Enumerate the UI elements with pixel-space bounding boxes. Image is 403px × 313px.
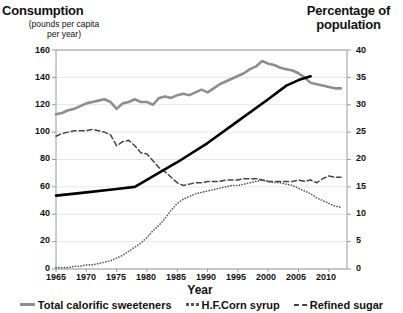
right-axis-title-line1: Percentage of <box>307 3 390 18</box>
chart-container: Consumption (pounds per capita per year)… <box>0 0 403 313</box>
y-tick-right-0: 40 <box>356 45 386 55</box>
legend-label-2: Refined sugar <box>310 299 383 311</box>
y-tick-right-8: 0 <box>356 263 386 273</box>
gridlines <box>56 50 347 269</box>
y-tick-left-6: 40 <box>20 208 50 218</box>
left-axis-title: Consumption <box>2 4 84 18</box>
y-tick-right-3: 25 <box>356 126 386 136</box>
y-tick-left-0: 160 <box>20 45 50 55</box>
left-axis-subtitle-line1: (pounds per capita <box>29 19 99 29</box>
legend-item-hf-corn-syrup[interactable]: H.F.Corn syrup <box>186 299 280 311</box>
legend: Total calorific sweeteners H.F.Corn syru… <box>0 296 403 313</box>
series-line-total-calorific-sweeteners <box>56 61 341 114</box>
y-tick-left-4: 80 <box>20 153 50 163</box>
legend-line-icon-dotted <box>186 303 199 306</box>
series-line-refined-sugar <box>56 129 341 185</box>
y-tick-left-7: 20 <box>20 235 50 245</box>
legend-item-total-calorific-sweeteners[interactable]: Total calorific sweeteners <box>20 299 172 311</box>
y-tick-right-6: 10 <box>356 208 386 218</box>
y-tick-left-5: 60 <box>20 181 50 191</box>
y-tick-right-4: 20 <box>356 153 386 163</box>
y-tick-right-2: 30 <box>356 99 386 109</box>
series-line-obesity-rate <box>56 76 311 195</box>
right-axis-title-line2: population <box>316 17 380 32</box>
legend-label-0: Total calorific sweeteners <box>38 299 172 311</box>
axis-lines <box>52 50 351 272</box>
left-axis-subtitle: (pounds per capita per year) <box>4 20 124 39</box>
y-tick-left-3: 100 <box>20 126 50 136</box>
series-line-h-f-corn-syrup <box>56 180 341 268</box>
x-tick-9: 2010 <box>308 272 344 282</box>
x-axis-title: Year <box>150 283 250 297</box>
y-tick-right-1: 35 <box>356 72 386 82</box>
y-tick-left-1: 140 <box>20 72 50 82</box>
legend-label-1: H.F.Corn syrup <box>202 299 280 311</box>
plot-area <box>0 0 403 313</box>
left-axis-subtitle-line2: per year) <box>47 29 81 39</box>
right-axis-title: Percentage of population <box>296 4 401 32</box>
legend-item-refined-sugar[interactable]: Refined sugar <box>294 299 383 311</box>
series-layer <box>56 61 341 268</box>
y-tick-left-2: 120 <box>20 99 50 109</box>
y-tick-right-7: 5 <box>356 235 386 245</box>
y-tick-right-5: 15 <box>356 181 386 191</box>
legend-line-icon-dashed <box>294 304 307 306</box>
legend-line-icon-solid <box>20 303 35 306</box>
